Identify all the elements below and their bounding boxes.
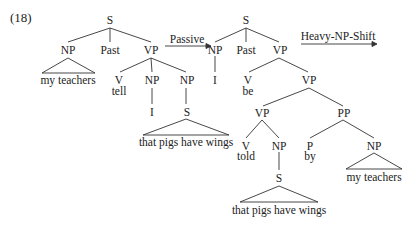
left-np-subject: NP [61, 44, 76, 56]
left-np-clause: NP [180, 74, 195, 86]
left-vp: VP [144, 44, 159, 56]
right-v-aux-word: be [243, 85, 254, 97]
right-vp: VP [273, 44, 288, 56]
left-np-obj-word: I [150, 106, 154, 118]
left-np-subject-text: my teachers [40, 74, 95, 86]
right-tense: Past [236, 44, 255, 56]
left-tense: Past [100, 44, 119, 56]
right-p-word: by [304, 150, 316, 162]
right-v-main-word: told [237, 150, 255, 162]
right-np-clause: NP [272, 140, 287, 152]
left-s-clause-text: that pigs have wings [139, 136, 233, 148]
left-root-s: S [107, 14, 113, 26]
heavy-np-shift-label: Heavy-NP-Shift [301, 30, 376, 42]
left-np-obj: NP [145, 74, 160, 86]
right-np-agent-text: my teachers [346, 171, 401, 183]
right-root-s: S [243, 14, 249, 26]
right-vp3: VP [255, 107, 270, 119]
right-s-clause: S [276, 172, 282, 184]
right-pp: PP [338, 107, 351, 119]
right-np-subject: NP [208, 44, 223, 56]
right-np-agent: NP [367, 140, 382, 152]
left-s-clause: S [184, 106, 190, 118]
passive-label: Passive [170, 33, 205, 45]
right-np-subject-word: I [213, 74, 217, 86]
right-s-clause-text: that pigs have wings [232, 204, 326, 216]
left-v-word: tell [112, 85, 127, 97]
right-vp2: VP [302, 74, 317, 86]
